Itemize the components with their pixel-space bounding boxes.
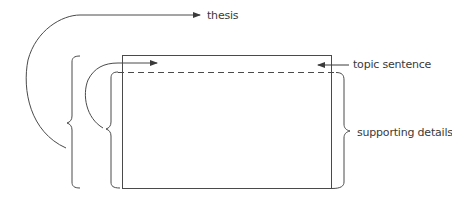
inner-brace-icon — [106, 72, 120, 188]
details-brace-icon — [332, 73, 350, 189]
paragraph-box — [123, 56, 332, 189]
topic-sentence-label: topic sentence — [353, 59, 431, 70]
diagram-drawing — [0, 0, 452, 200]
thesis-label: thesis — [207, 10, 238, 21]
essay-structure-diagram: thesis topic sentence supporting details — [0, 0, 452, 200]
thesis-arrow — [26, 15, 200, 148]
outer-brace-icon — [67, 56, 80, 188]
supporting-details-label: supporting details — [357, 127, 452, 138]
